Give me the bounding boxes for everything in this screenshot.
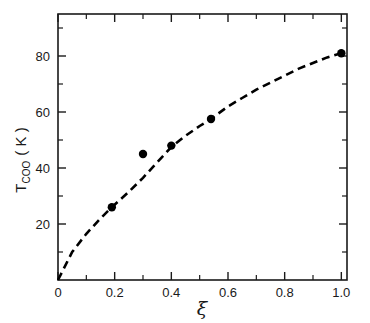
y-tick-label: 80 — [36, 49, 50, 64]
y-tick-label: 60 — [36, 105, 50, 120]
x-tick-label: 0.4 — [162, 285, 180, 300]
data-point — [108, 203, 116, 211]
data-point — [167, 141, 175, 149]
y-tick-label: 40 — [36, 161, 50, 176]
data-point — [139, 150, 147, 158]
y-axis-title-units: ( K ) — [12, 127, 29, 155]
x-axis-title: ξ — [197, 297, 209, 319]
x-tick-label: 0 — [54, 285, 61, 300]
figure-container: 00.20.40.60.81.0 20406080 ξ TCOO( K ) — [0, 0, 370, 323]
plot-canvas: 00.20.40.60.81.0 20406080 ξ TCOO( K ) — [0, 0, 370, 323]
data-point — [207, 115, 215, 123]
data-point — [337, 49, 345, 57]
x-tick-label: 1.0 — [332, 285, 350, 300]
x-tick-label: 0.8 — [276, 285, 294, 300]
y-axis-title-main: T — [12, 183, 29, 192]
y-tick-label: 20 — [36, 217, 50, 232]
y-axis-title-subscript: COO — [21, 160, 32, 183]
figure-background — [0, 0, 370, 323]
x-tick-label: 0.6 — [219, 285, 237, 300]
x-tick-label: 0.2 — [106, 285, 124, 300]
